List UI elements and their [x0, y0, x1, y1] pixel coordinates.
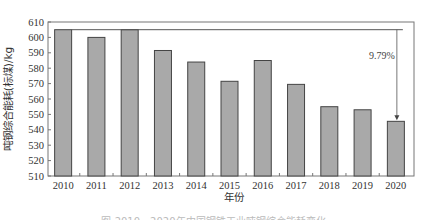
- x-tick-label: 2020: [385, 180, 406, 191]
- y-tick-label: 610: [28, 17, 44, 28]
- change-percent-label: 9.79%: [369, 50, 395, 61]
- x-tick-label: 2013: [152, 180, 173, 191]
- bar-2017: [288, 84, 305, 176]
- y-tick-label: 550: [28, 109, 44, 120]
- y-tick-label: 580: [28, 63, 44, 74]
- bar-2014: [188, 62, 205, 176]
- bar-2012: [121, 30, 138, 176]
- x-tick-label: 2010: [53, 180, 74, 191]
- arrow-down-icon: [394, 115, 399, 120]
- bar-2018: [321, 107, 338, 176]
- bar-2010: [55, 30, 72, 176]
- bar-2020: [387, 121, 404, 176]
- bars: [55, 30, 405, 176]
- bar-chart: 510520530540550560570580590600610 201020…: [0, 0, 427, 220]
- y-tick-label: 540: [28, 124, 44, 135]
- figure-caption: 图 2010—2020年中国钢铁工业吨钢综合能耗变化: [0, 213, 427, 220]
- y-tick-label: 570: [28, 78, 44, 89]
- x-tick-label: 2017: [286, 180, 307, 191]
- y-tick-label: 600: [28, 32, 44, 43]
- y-tick-label: 510: [28, 171, 44, 182]
- x-tick-label: 2019: [352, 180, 373, 191]
- bar-2016: [254, 61, 271, 177]
- x-tick-label: 2016: [252, 180, 273, 191]
- x-tick-label: 2011: [86, 180, 107, 191]
- x-tick-label: 2018: [319, 180, 340, 191]
- x-tick-label: 2014: [186, 180, 208, 191]
- bar-2019: [354, 110, 371, 176]
- y-tick-label: 520: [28, 155, 44, 166]
- y-tick-label: 530: [28, 140, 44, 151]
- x-axis-title: 年份: [224, 191, 245, 203]
- x-tick-label: 2012: [119, 180, 140, 191]
- bar-2013: [154, 50, 171, 176]
- x-tick-label: 2015: [219, 180, 240, 191]
- bar-2015: [221, 81, 238, 176]
- y-axis-title: 吨钢综合能耗(标煤)/kg: [2, 47, 14, 151]
- y-tick-label: 560: [28, 94, 44, 105]
- y-tick-label: 590: [28, 47, 44, 58]
- bar-2011: [88, 37, 105, 176]
